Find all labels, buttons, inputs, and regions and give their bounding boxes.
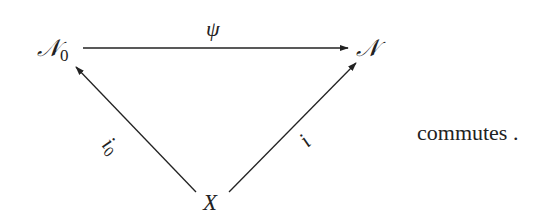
diagram-arrows [0,0,560,224]
label-psi: ψ [206,18,220,40]
node-x-symbol: X [203,190,217,215]
node-x: X [203,191,217,214]
node-n: 𝒩 [356,36,379,60]
caption-text: commutes . [417,120,518,145]
node-n0: 𝒩0 [37,36,69,64]
arrow-i0 [76,67,196,192]
label-psi-text: ψ [206,16,220,41]
node-n0-symbol: 𝒩 [37,34,60,62]
arrow-i [229,63,356,192]
node-n-symbol: 𝒩 [356,34,379,62]
node-n0-subscript: 0 [60,46,69,65]
caption-commutes: commutes . [417,120,518,146]
